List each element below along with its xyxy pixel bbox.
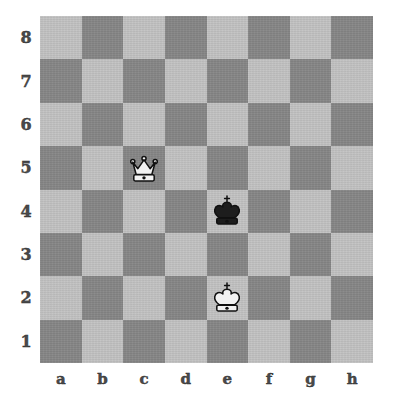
file-label-b: b <box>82 366 124 392</box>
square-a6[interactable] <box>40 103 82 146</box>
square-g8[interactable] <box>290 16 332 59</box>
square-e5[interactable] <box>207 146 249 189</box>
square-d7[interactable] <box>165 59 207 102</box>
rank-label-4: 4 <box>14 190 38 233</box>
square-b1[interactable] <box>82 320 124 363</box>
square-c3[interactable] <box>123 233 165 276</box>
square-g6[interactable] <box>290 103 332 146</box>
square-e6[interactable] <box>207 103 249 146</box>
square-f4[interactable] <box>248 190 290 233</box>
square-b8[interactable] <box>82 16 124 59</box>
square-f6[interactable] <box>248 103 290 146</box>
square-h8[interactable] <box>331 16 373 59</box>
square-b3[interactable] <box>82 233 124 276</box>
square-c1[interactable] <box>123 320 165 363</box>
white-queen-icon[interactable] <box>127 151 161 185</box>
square-a5[interactable] <box>40 146 82 189</box>
square-a4[interactable] <box>40 190 82 233</box>
square-e3[interactable] <box>207 233 249 276</box>
rank-label-8: 8 <box>14 16 38 59</box>
square-a1[interactable] <box>40 320 82 363</box>
square-h1[interactable] <box>331 320 373 363</box>
black-king-icon[interactable] <box>210 194 244 228</box>
rank-label-6: 6 <box>14 103 38 146</box>
square-e4[interactable] <box>207 190 249 233</box>
rank-label-column: 8 7 6 5 4 3 2 1 <box>14 16 38 363</box>
square-e1[interactable] <box>207 320 249 363</box>
square-e8[interactable] <box>207 16 249 59</box>
square-b5[interactable] <box>82 146 124 189</box>
file-label-a: a <box>40 366 82 392</box>
square-g5[interactable] <box>290 146 332 189</box>
square-c2[interactable] <box>123 276 165 319</box>
square-b7[interactable] <box>82 59 124 102</box>
square-g3[interactable] <box>290 233 332 276</box>
square-h2[interactable] <box>331 276 373 319</box>
square-b6[interactable] <box>82 103 124 146</box>
file-label-f: f <box>248 366 290 392</box>
square-e7[interactable] <box>207 59 249 102</box>
square-f8[interactable] <box>248 16 290 59</box>
square-h5[interactable] <box>331 146 373 189</box>
square-c7[interactable] <box>123 59 165 102</box>
square-h7[interactable] <box>331 59 373 102</box>
rank-label-1: 1 <box>14 320 38 363</box>
square-a7[interactable] <box>40 59 82 102</box>
file-label-e: e <box>207 366 249 392</box>
file-label-row: a b c d e f g h <box>40 366 373 392</box>
file-label-d: d <box>165 366 207 392</box>
rank-label-2: 2 <box>14 276 38 319</box>
square-a3[interactable] <box>40 233 82 276</box>
square-c8[interactable] <box>123 16 165 59</box>
square-f5[interactable] <box>248 146 290 189</box>
chessboard[interactable] <box>40 16 373 363</box>
square-f1[interactable] <box>248 320 290 363</box>
white-king-icon[interactable] <box>210 281 244 315</box>
square-f2[interactable] <box>248 276 290 319</box>
square-c5[interactable] <box>123 146 165 189</box>
square-d2[interactable] <box>165 276 207 319</box>
square-d5[interactable] <box>165 146 207 189</box>
square-d1[interactable] <box>165 320 207 363</box>
square-g7[interactable] <box>290 59 332 102</box>
square-h3[interactable] <box>331 233 373 276</box>
square-b4[interactable] <box>82 190 124 233</box>
square-d3[interactable] <box>165 233 207 276</box>
rank-label-7: 7 <box>14 59 38 102</box>
file-label-h: h <box>331 366 373 392</box>
rank-label-3: 3 <box>14 233 38 276</box>
square-e2[interactable] <box>207 276 249 319</box>
square-h6[interactable] <box>331 103 373 146</box>
file-label-g: g <box>290 366 332 392</box>
square-h4[interactable] <box>331 190 373 233</box>
square-b2[interactable] <box>82 276 124 319</box>
file-label-c: c <box>123 366 165 392</box>
square-f3[interactable] <box>248 233 290 276</box>
square-f7[interactable] <box>248 59 290 102</box>
square-g1[interactable] <box>290 320 332 363</box>
square-g2[interactable] <box>290 276 332 319</box>
square-a8[interactable] <box>40 16 82 59</box>
square-a2[interactable] <box>40 276 82 319</box>
square-d4[interactable] <box>165 190 207 233</box>
square-d6[interactable] <box>165 103 207 146</box>
rank-label-5: 5 <box>14 146 38 189</box>
square-g4[interactable] <box>290 190 332 233</box>
square-c6[interactable] <box>123 103 165 146</box>
chess-diagram: 8 7 6 5 4 3 2 1 <box>0 0 395 411</box>
square-d8[interactable] <box>165 16 207 59</box>
square-c4[interactable] <box>123 190 165 233</box>
